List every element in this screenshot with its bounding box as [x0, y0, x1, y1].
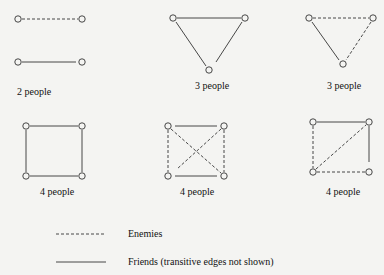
graph-label: 3 people [327, 80, 361, 91]
graph-label: 4 people [40, 186, 74, 197]
friend-edge [312, 22, 339, 60]
person-node [170, 15, 176, 21]
person-node [221, 173, 227, 179]
person-node [340, 61, 346, 67]
person-node [165, 173, 171, 179]
person-node [79, 123, 85, 129]
graph-label: 4 people [180, 186, 214, 197]
person-node [15, 16, 21, 22]
person-node [79, 173, 85, 179]
graph-2-people [15, 16, 85, 65]
person-node [366, 169, 372, 175]
graph-4-people-crossed [165, 123, 227, 179]
person-node [165, 123, 171, 129]
graph-label: 3 people [195, 80, 229, 91]
enemy-edge [171, 129, 221, 173]
person-node [242, 15, 248, 21]
friend-edge [176, 22, 206, 66]
person-node [23, 173, 29, 179]
person-node [370, 15, 376, 21]
friend-edge [216, 22, 242, 62]
enemy-edge [316, 125, 366, 169]
person-node [221, 123, 227, 129]
person-node [310, 169, 316, 175]
person-node [79, 59, 85, 65]
graph-3-people-mixed [306, 15, 376, 67]
graph-3-people-friends [170, 15, 248, 73]
person-node [310, 119, 316, 125]
diagram-canvas [0, 0, 384, 275]
person-node [206, 67, 212, 73]
graph-label: 4 people [326, 186, 360, 197]
graph-label: 2 people [17, 86, 51, 97]
graph-4-people-square [23, 123, 85, 179]
legend-enemies-label: Enemies [128, 228, 162, 239]
person-node [23, 123, 29, 129]
enemy-edge [346, 22, 371, 60]
person-node [15, 59, 21, 65]
person-node [306, 15, 312, 21]
enemy-edge [177, 129, 221, 169]
legend-friends-label: Friends (transitive edges not shown) [128, 256, 274, 267]
person-node [79, 16, 85, 22]
person-node [366, 119, 372, 125]
graph-4-people-mixed [310, 119, 372, 175]
